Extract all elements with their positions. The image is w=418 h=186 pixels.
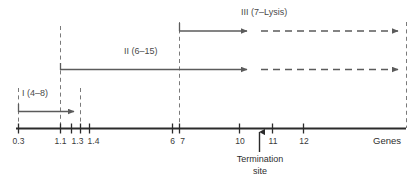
- transcript-I-arrow: [18, 104, 74, 112]
- termination-site-label-line1: Termination: [210, 154, 310, 165]
- transcript-II-label: II (6–15): [124, 47, 158, 56]
- tick-label-0-3: 0.3: [9, 137, 29, 146]
- tick-label-11: 11: [266, 137, 280, 146]
- genes-axis-label: Genes: [373, 136, 401, 146]
- dashed-guide-lines: [19, 22, 407, 128]
- gene-axis: [16, 124, 406, 134]
- termination-site-label-line2: site: [210, 166, 310, 177]
- tick-label-1-4: 1.4: [84, 137, 103, 146]
- tick-label-12: 12: [297, 137, 311, 146]
- transcript-I-label: I (4–8): [22, 89, 48, 98]
- tick-label-7: 7: [177, 137, 188, 146]
- gene-transcription-map-figure: III (7–Lysis) II (6–15) I (4–8) 0.3 1.1 …: [0, 0, 418, 186]
- tick-label-10: 10: [233, 137, 247, 146]
- transcript-III-label: III (7–Lysis): [241, 8, 287, 17]
- gene-map-vector-layer: [0, 0, 418, 186]
- transcript-III-arrow: [179, 23, 398, 31]
- transcript-II-arrow: [60, 63, 398, 70]
